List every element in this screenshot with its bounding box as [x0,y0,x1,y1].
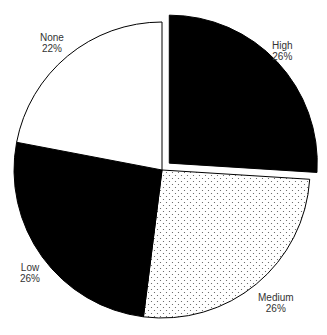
label-high: High 26% [272,40,293,62]
label-low: Low 26% [20,262,40,284]
slice-high [169,15,317,172]
label-none: None 22% [40,32,64,54]
label-medium: Medium 26% [258,292,294,314]
slice-low [14,142,162,317]
